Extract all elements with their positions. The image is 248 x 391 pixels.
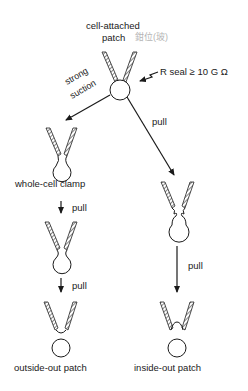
inside-out-label: inside-out patch [134, 362, 201, 373]
whole-cell-label: whole-cell clamp [15, 178, 85, 189]
pull-label-1: pull [72, 202, 87, 213]
inside-out-pipette-icon [160, 302, 194, 357]
pull-diagonal-arrow-icon [127, 97, 174, 175]
patch-label: patch [102, 32, 125, 43]
diagram-canvas [0, 0, 248, 391]
handwritten-note: 鉗位(玻) [135, 32, 168, 43]
cell-attached-pipette-icon [102, 52, 137, 100]
outside-out-label: outside-out patch [14, 362, 87, 373]
seal-resistance-label: R seal ≥ 10 G Ω [160, 66, 228, 77]
outside-out-pipette-icon [44, 302, 77, 357]
pull-label-right: pull [188, 260, 203, 271]
inside-out-intermediate-pipette-icon [161, 182, 194, 242]
pull-diagonal-label: pull [152, 116, 167, 127]
cell-attached-label: cell-attached [86, 20, 140, 31]
intermediate-pipette-icon [45, 222, 77, 274]
seal-lightning-arrow-icon [140, 72, 158, 81]
whole-cell-pipette-icon [46, 128, 77, 182]
pull-label-2: pull [72, 280, 87, 291]
